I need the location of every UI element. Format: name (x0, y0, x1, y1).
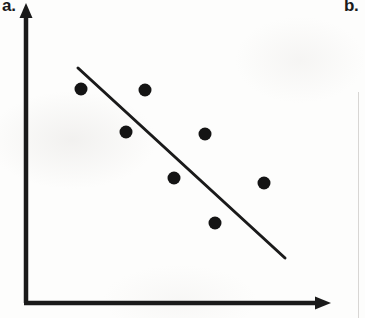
data-point (199, 128, 212, 141)
trend-line (78, 68, 285, 258)
data-point (168, 172, 181, 185)
y-axis-arrow-icon (20, 3, 33, 18)
scatter-plot-chart (0, 0, 365, 318)
figure-root: a. b. (0, 0, 365, 318)
data-point (75, 83, 88, 96)
data-point (120, 126, 133, 139)
data-point (258, 177, 271, 190)
x-axis-arrow-icon (315, 297, 331, 310)
data-point (209, 217, 222, 230)
data-point (139, 84, 152, 97)
